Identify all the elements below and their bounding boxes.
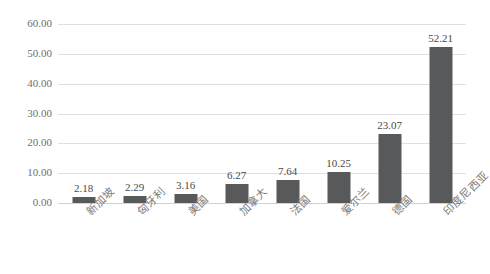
bar-value-label: 2.29: [125, 181, 144, 193]
bar-value-label: 2.18: [74, 182, 93, 194]
y-axis-tick-label: 20.00: [6, 137, 52, 148]
y-axis-tick-label: 60.00: [6, 18, 52, 29]
bar-value-label: 6.27: [227, 169, 246, 181]
cropped-header-artifact: · ·· ··· ···· ··· ··: [6, 0, 176, 5]
bar-series: 2.182.293.166.277.6410.2523.0752.21: [58, 24, 466, 203]
x-axis-label-slot: 美国: [160, 205, 211, 274]
bar-group: 2.18: [58, 24, 109, 203]
x-axis-label-slot: 加拿大: [211, 205, 262, 274]
bar-value-label: 3.16: [176, 179, 195, 191]
y-axis-tick-label: 30.00: [6, 108, 52, 119]
x-axis-label-slot: 德国: [364, 205, 415, 274]
y-axis-tick-label: 40.00: [6, 78, 52, 89]
y-axis-tick-label: 10.00: [6, 167, 52, 178]
bar-group: 2.29: [109, 24, 160, 203]
bar-value-label: 23.07: [377, 119, 402, 131]
x-axis-label-slot: 匈牙利: [109, 205, 160, 274]
x-axis-label-slot: 爱尔兰: [313, 205, 364, 274]
x-axis-label-slot: 法国: [262, 205, 313, 274]
bar-value-label: 52.21: [428, 32, 453, 44]
x-axis-label-slot: 印度尼西亚: [415, 205, 466, 274]
y-axis-tick-label: 0.00: [6, 197, 52, 208]
bar-group: 10.25: [313, 24, 364, 203]
bar: [378, 134, 401, 203]
cropped-header-text: · ·· ··· ···· ··· ··: [6, 0, 176, 4]
bar-group: 3.16: [160, 24, 211, 203]
bar-value-label: 7.64: [278, 165, 297, 177]
bar: [429, 47, 452, 203]
x-axis-category-labels: 新加坡匈牙利美国加拿大法国爱尔兰德国印度尼西亚: [58, 205, 466, 274]
x-axis-label-slot: 新加坡: [58, 205, 109, 274]
bar-group: 6.27: [211, 24, 262, 203]
y-axis-tick-label: 50.00: [6, 48, 52, 59]
bar-group: 23.07: [364, 24, 415, 203]
bar-group: 7.64: [262, 24, 313, 203]
bar-value-label: 10.25: [326, 157, 351, 169]
y-axis-tick-labels: 60.0050.0040.0030.0020.0010.000.00: [0, 24, 52, 203]
bar-group: 52.21: [415, 24, 466, 203]
